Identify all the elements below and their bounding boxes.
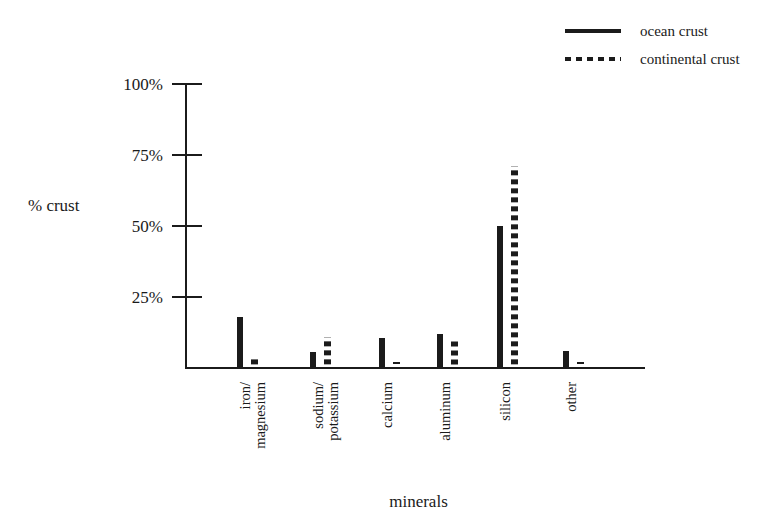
bar-continental-crust-iron-magnesium [251, 357, 258, 368]
y-tick-label-100: 100% [83, 76, 163, 93]
x-category-label-iron-magnesium: iron/ magnesium [238, 382, 252, 482]
bar-ocean-crust-calcium [379, 338, 385, 368]
x-category-label-aluminum: aluminum [438, 382, 452, 482]
x-category-line1: other [564, 382, 579, 412]
legend-item-continental-crust: continental crust [565, 46, 765, 74]
x-category-line1: silicon [498, 382, 513, 421]
x-axis-title: minerals [0, 492, 772, 512]
bar-continental-crust-aluminum [451, 340, 458, 369]
y-tick-label-25: 25% [83, 289, 163, 306]
x-category-line2: potassium [326, 382, 341, 441]
plot-area [185, 83, 645, 368]
x-category-line2: magnesium [253, 382, 268, 449]
legend-label-continental-crust: continental crust [640, 46, 740, 72]
solid-line-swatch [565, 29, 621, 33]
x-category-line1: iron/ [238, 382, 253, 409]
x-category-line1: calcium [380, 382, 395, 428]
bar-ocean-crust-sodium-potassium [310, 352, 316, 368]
bar-continental-crust-calcium [393, 362, 400, 368]
crust-composition-chart: ocean crust continental crust 100% 75% 5… [0, 0, 772, 528]
legend-item-ocean-crust: ocean crust [565, 18, 765, 46]
y-tick-label-50: 50% [83, 218, 163, 235]
chart-legend: ocean crust continental crust [565, 18, 765, 74]
bar-continental-crust-sodium-potassium [324, 337, 331, 368]
dotted-line-swatch [565, 57, 621, 61]
legend-label-ocean-crust: ocean crust [640, 18, 708, 44]
x-category-line1: sodium/ [311, 382, 326, 429]
bar-ocean-crust-aluminum [437, 334, 443, 368]
x-category-label-sodium-potassium: sodium/ potassium [311, 382, 325, 482]
bar-ocean-crust-silicon [497, 226, 503, 369]
x-category-label-calcium: calcium [380, 382, 394, 482]
y-tick-label-75: 75% [83, 147, 163, 164]
bar-continental-crust-silicon [511, 166, 518, 368]
x-category-line1: aluminum [438, 382, 453, 441]
y-axis-title: % crust [28, 196, 79, 216]
bar-ocean-crust-other [563, 351, 569, 368]
x-category-label-silicon: silicon [498, 382, 512, 482]
x-category-label-other: other [564, 382, 578, 482]
bar-continental-crust-other [577, 362, 584, 368]
bar-ocean-crust-iron-magnesium [237, 317, 243, 368]
